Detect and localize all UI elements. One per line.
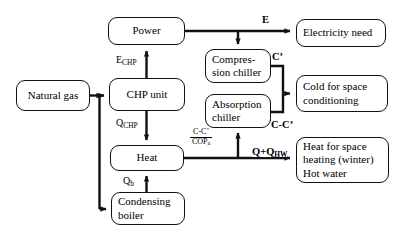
node-power-label: Power — [132, 24, 160, 37]
edge-label-c-minus-c-prime-text: C-C’ — [271, 119, 293, 130]
node-cold-for-space-conditioning[interactable]: Cold for space conditioning — [296, 75, 388, 112]
node-electricity-need-label: Electricity need — [303, 26, 372, 39]
edge-absorption-to-coldbus — [271, 94, 283, 113]
edge-label-c-prime: C’ — [272, 51, 283, 62]
node-condensing-boiler[interactable]: Condensing boiler — [111, 192, 185, 225]
edge-label-q-plus-qhw-text: Q+Q — [252, 146, 274, 157]
edge-label-q-plus-qhw-sub: HW — [274, 150, 287, 159]
edge-label-e: E — [262, 14, 269, 25]
node-heat-for-space-heating[interactable]: Heat for space heating (winter) Hot wate… — [296, 137, 389, 183]
node-absorption-chiller-label: Absorption chiller — [212, 98, 270, 125]
edge-label-c-minus-c-prime: C-C’ — [271, 119, 293, 130]
node-heat-for-space-heating-label: Heat for space heating (winter) Hot wate… — [303, 140, 388, 180]
node-heat[interactable]: Heat — [110, 145, 184, 171]
node-heat-label: Heat — [137, 151, 158, 164]
node-electricity-need[interactable]: Electricity need — [296, 19, 386, 47]
edge-label-q-chp-sub: CHP — [123, 121, 137, 130]
node-condensing-boiler-label: Condensing boiler — [118, 195, 184, 222]
process-flow-diagram: Natural gas Power CHP unit Heat Condensi… — [0, 0, 403, 233]
edge-label-q-b: Qb — [123, 176, 134, 187]
edge-label-q-plus-qhw: Q+QHW — [252, 146, 287, 157]
node-cold-for-space-conditioning-label: Cold for space conditioning — [303, 80, 387, 107]
edge-label-e-chp-sub: CHP — [122, 58, 136, 67]
edge-label-c-prime-text: C’ — [272, 51, 283, 62]
cop-fraction-denominator: COPa — [190, 137, 212, 147]
cop-fraction-numerator: C-C’ — [190, 128, 212, 137]
edge-label-cop-fraction: C-C’ COPa — [190, 128, 212, 147]
node-chp-unit[interactable]: CHP unit — [109, 78, 185, 111]
node-natural-gas-label: Natural gas — [28, 89, 78, 102]
node-power[interactable]: Power — [108, 17, 185, 45]
edge-compression-to-coldbus — [271, 66, 283, 94]
edge-label-e-chp: ECHP — [116, 55, 137, 66]
node-absorption-chiller[interactable]: Absorption chiller — [205, 94, 271, 128]
node-compression-chiller[interactable]: Compres-sion chiller — [205, 49, 271, 83]
edge-label-q-b-sub: b — [130, 179, 134, 188]
node-compression-chiller-label: Compres-sion chiller — [212, 53, 270, 80]
edge-label-e-text: E — [262, 14, 269, 25]
node-chp-unit-label: CHP unit — [127, 88, 168, 101]
node-natural-gas[interactable]: Natural gas — [16, 80, 90, 111]
cop-fraction-denominator-text: COP — [192, 137, 208, 146]
cop-fraction-denominator-sub: a — [208, 140, 211, 146]
edge-label-q-chp: QCHP — [116, 118, 138, 129]
